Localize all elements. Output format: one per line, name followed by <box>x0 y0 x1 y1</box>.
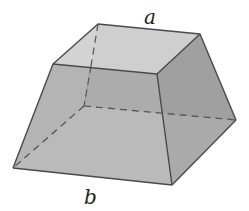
label-b: b <box>84 185 97 209</box>
front-face <box>13 64 172 185</box>
frustum-diagram: a b <box>0 0 249 211</box>
label-a: a <box>144 5 156 29</box>
